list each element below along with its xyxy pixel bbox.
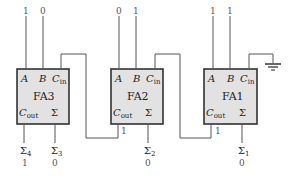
fa3-input-b-value: 0 bbox=[40, 7, 46, 16]
fa3-pin-sum: Σ bbox=[51, 108, 58, 118]
fa2-pin-a: A bbox=[115, 74, 122, 84]
sigma4-value: 1 bbox=[22, 159, 28, 168]
fa3-pin-b: B bbox=[39, 74, 46, 84]
fa1-pin-a: A bbox=[208, 74, 215, 84]
fa2-title: FA2 bbox=[127, 91, 149, 102]
fa2-carry-value: 1 bbox=[121, 127, 127, 136]
sigma1-value: 0 bbox=[239, 159, 245, 168]
fa2-input-a-value: 0 bbox=[116, 7, 122, 16]
full-adder-diagram: 1 0 A B Cin FA3 Cout Σ Σ4 Σ3 1 0 0 1 A B… bbox=[0, 0, 297, 179]
fa2-pin-cin: Cin bbox=[146, 74, 160, 87]
sigma2-value: 0 bbox=[145, 159, 151, 168]
fa2-pin-b: B bbox=[133, 74, 140, 84]
fa1-input-b-value: 1 bbox=[227, 7, 233, 16]
fa2-input-b-value: 1 bbox=[133, 7, 139, 16]
fa3-pin-cin: Cin bbox=[52, 74, 66, 87]
fa2-pin-cout: Cout bbox=[113, 108, 132, 121]
fa3-title: FA3 bbox=[33, 91, 55, 102]
fa1-pin-sum: Σ bbox=[239, 108, 246, 118]
fa3-pin-cout: Cout bbox=[19, 108, 38, 121]
fa1-title: FA1 bbox=[222, 91, 244, 102]
sigma3-value: 0 bbox=[52, 159, 58, 168]
fa2-pin-sum: Σ bbox=[145, 108, 152, 118]
fa3-input-a-value: 1 bbox=[23, 7, 29, 16]
fa3-pin-a: A bbox=[21, 74, 28, 84]
fa1-input-a-value: 1 bbox=[210, 7, 216, 16]
fa1-pin-cout: Cout bbox=[206, 108, 225, 121]
fa1-pin-b: B bbox=[227, 74, 234, 84]
fa1-carry-value: 1 bbox=[215, 127, 221, 136]
fa1-pin-cin: Cin bbox=[240, 74, 254, 87]
